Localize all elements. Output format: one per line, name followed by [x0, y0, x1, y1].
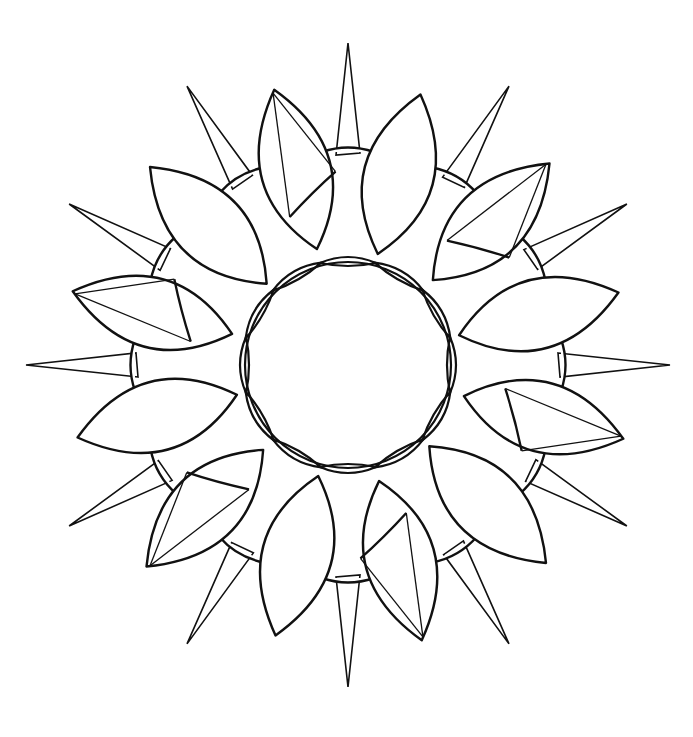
mandala-group: [26, 43, 670, 687]
inner-ring: [240, 257, 456, 473]
mandala-canvas: [0, 0, 693, 737]
mandala-drawing: [0, 0, 693, 737]
